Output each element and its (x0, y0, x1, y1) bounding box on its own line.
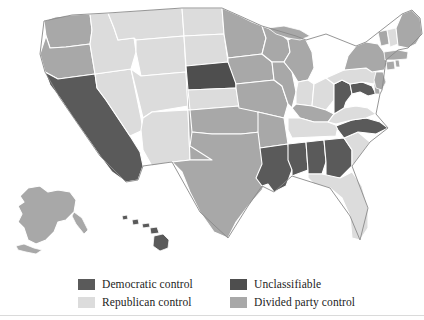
legend-label-republican: Republican control (102, 296, 192, 308)
state-HI-maui[interactable] (150, 227, 159, 234)
legend-swatch-divided (230, 297, 247, 308)
state-FL[interactable] (308, 172, 368, 240)
state-SD[interactable] (184, 34, 228, 66)
legend-swatch-unclassifiable (230, 279, 247, 290)
state-AZ[interactable] (141, 110, 190, 166)
state-NY[interactable] (344, 42, 388, 72)
us-state-control-map: Democratic control Republican control Un… (0, 0, 424, 320)
legend-swatch-republican (78, 297, 95, 308)
state-AK-panhandle[interactable] (72, 212, 88, 234)
legend-item-unclassifiable: Unclassifiable (230, 276, 321, 292)
map-figure-page: Democratic control Republican control Un… (0, 0, 424, 320)
legend-item-divided-party-control: Divided party control (230, 294, 355, 310)
state-HI-molokai[interactable] (142, 223, 150, 228)
state-IN[interactable] (296, 80, 314, 106)
state-RI[interactable] (395, 60, 400, 67)
state-ND[interactable] (182, 8, 224, 36)
state-AK[interactable] (18, 186, 76, 244)
state-HI-kauai[interactable] (122, 215, 128, 220)
state-LA[interactable] (256, 144, 292, 192)
legend-swatch-democratic (78, 279, 95, 290)
state-PA[interactable] (326, 68, 376, 84)
legend-label-unclassifiable: Unclassifiable (254, 278, 321, 290)
state-AL[interactable] (306, 140, 326, 174)
state-AK-aleutians[interactable] (16, 244, 42, 254)
figure-bottom-rule (0, 315, 424, 316)
state-HI-bigisland[interactable] (153, 234, 169, 251)
legend-item-democratic-control: Democratic control (78, 276, 193, 292)
state-MN[interactable] (222, 8, 266, 58)
state-NE[interactable] (186, 62, 236, 90)
state-MT[interactable] (108, 8, 184, 40)
us-map-svg (0, 0, 424, 320)
state-WY[interactable] (136, 36, 186, 76)
legend-label-democratic: Democratic control (102, 278, 193, 290)
legend-item-republican-control: Republican control (78, 294, 192, 310)
state-AR[interactable] (258, 112, 288, 148)
legend-label-divided: Divided party control (254, 296, 355, 308)
state-HI-oahu[interactable] (132, 219, 139, 225)
state-OH[interactable] (312, 78, 334, 110)
state-CT[interactable] (386, 61, 395, 70)
map-legend: Democratic control Republican control Un… (78, 276, 378, 312)
